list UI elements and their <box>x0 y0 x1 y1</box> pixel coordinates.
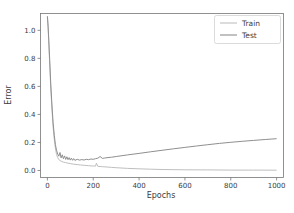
x-tick-label: 1000 <box>268 182 286 190</box>
x-tick-label: 200 <box>87 182 100 190</box>
y-tick-label: 0.6 <box>24 83 36 91</box>
figure-canvas: 020040060080010000.00.20.40.60.81.0 Epoc… <box>0 0 294 213</box>
y-axis-label: Error <box>4 85 13 105</box>
legend-train-label: Train <box>241 19 260 28</box>
error-vs-epochs-chart: 020040060080010000.00.20.40.60.81.0 Epoc… <box>0 0 294 213</box>
x-tick-label: 800 <box>224 182 237 190</box>
legend: Train Test <box>215 16 281 44</box>
y-tick-label: 1.0 <box>24 27 35 35</box>
x-tick-label: 600 <box>178 182 191 190</box>
y-tick-label: 0.4 <box>24 111 36 119</box>
x-axis-label: Epochs <box>147 191 176 200</box>
x-tick-label: 0 <box>45 182 49 190</box>
y-tick-label: 0.0 <box>24 167 35 175</box>
x-tick-label: 400 <box>132 182 145 190</box>
y-tick-label: 0.8 <box>24 55 35 63</box>
legend-test-label: Test <box>241 31 257 40</box>
y-tick-label: 0.2 <box>24 139 35 147</box>
